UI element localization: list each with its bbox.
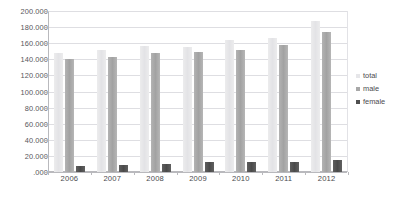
bar-group <box>54 11 85 172</box>
bar-total <box>140 46 149 172</box>
y-axis-tick-label: 40.000 <box>2 135 48 144</box>
legend-item-female[interactable]: female <box>356 96 400 107</box>
bar-group <box>311 11 342 172</box>
gridline <box>49 172 347 173</box>
bar-total <box>183 47 192 172</box>
x-axis: 2006200720082009201020112012 <box>48 174 348 190</box>
legend-swatch-icon <box>356 74 360 78</box>
legend-label: total <box>363 71 377 80</box>
bar-group <box>225 11 256 172</box>
bar-female <box>290 162 299 172</box>
y-axis-tick-label: 180.000 <box>2 23 48 32</box>
x-axis-tick-label: 2012 <box>306 174 348 183</box>
bar-female <box>247 162 256 172</box>
bar-total <box>268 38 277 172</box>
x-axis-tick-label: 2007 <box>91 174 133 183</box>
bar-total <box>225 40 234 172</box>
bar-total <box>311 21 320 172</box>
legend-swatch-icon <box>356 87 360 91</box>
y-axis-tick-label: 80.000 <box>2 103 48 112</box>
y-axis-tick-label: 100.000 <box>2 87 48 96</box>
x-axis-tick-label: 2011 <box>263 174 305 183</box>
bar-chart: .00020.00040.00060.00080.000100.000120.0… <box>0 0 400 203</box>
y-axis-tick-label: .000 <box>2 168 48 177</box>
bar-male <box>108 57 117 172</box>
bar-male <box>151 53 160 172</box>
chart-legend: totalmalefemale <box>356 70 400 109</box>
bar-male <box>236 50 245 172</box>
y-axis-tick-label: 20.000 <box>2 151 48 160</box>
bar-male <box>194 52 203 172</box>
legend-swatch-icon <box>356 100 360 104</box>
legend-label: male <box>363 84 379 93</box>
bar-female <box>76 166 85 172</box>
bar-female <box>205 162 214 172</box>
bar-male <box>279 45 288 172</box>
x-axis-tick <box>48 172 49 175</box>
bar-total <box>97 50 106 172</box>
legend-label: female <box>363 97 385 106</box>
bar-group <box>97 11 128 172</box>
x-axis-tick-label: 2008 <box>134 174 176 183</box>
x-axis-tick-label: 2010 <box>220 174 262 183</box>
bar-group <box>268 11 299 172</box>
y-axis-tick-label: 160.000 <box>2 39 48 48</box>
bar-group <box>183 11 214 172</box>
bar-male <box>322 32 331 172</box>
legend-item-total[interactable]: total <box>356 70 400 81</box>
bars-layer <box>48 11 348 172</box>
x-axis-tick-label: 2006 <box>48 174 90 183</box>
x-axis-tick-label: 2009 <box>177 174 219 183</box>
legend-item-male[interactable]: male <box>356 83 400 94</box>
bar-total <box>54 53 63 172</box>
bar-group <box>140 11 171 172</box>
y-axis-tick-label: 140.000 <box>2 55 48 64</box>
x-axis-tick <box>348 172 349 175</box>
y-axis-tick-label: 200.000 <box>2 7 48 16</box>
y-axis-tick-label: 120.000 <box>2 71 48 80</box>
y-axis-tick-label: 60.000 <box>2 119 48 128</box>
bar-female <box>119 165 128 172</box>
bar-female <box>333 160 342 172</box>
bar-female <box>162 164 171 172</box>
bar-male <box>65 59 74 172</box>
